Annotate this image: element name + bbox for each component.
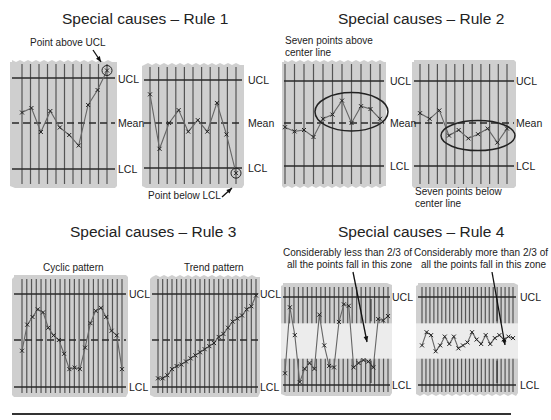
bottom-divider: [12, 413, 511, 415]
note-trend-pattern: Trend pattern: [184, 262, 244, 274]
note-more-than-two-thirds-2: all the points fall in this zone: [421, 259, 546, 271]
rule4b-lcl-label: LCL: [520, 379, 539, 391]
rule3b-ucl-label: UCL: [260, 288, 281, 300]
rule1b-ucl-label: UCL: [248, 74, 269, 86]
rule2-title: Special causes – Rule 2: [338, 10, 504, 28]
note-point-above-ucl: Point above UCL: [30, 37, 106, 49]
rule2b-ucl-label: UCL: [516, 75, 537, 87]
note-less-than-two-thirds-2: all the points fall in this zone: [287, 259, 412, 271]
rule3b-lcl-label: LCL: [260, 381, 279, 393]
rule2a-lcl-label: LCL: [390, 160, 409, 172]
rule1b-mean-label: Mean: [248, 117, 274, 129]
rule3a-lcl-label: LCL: [129, 381, 148, 393]
note-less-than-two-thirds-1: Considerably less than 2/3 of: [283, 247, 412, 259]
note-seven-below-1: Seven points below: [415, 186, 502, 198]
rule2b-mean-label: Mean: [516, 117, 542, 129]
rule2a-ucl-label: UCL: [390, 75, 411, 87]
rule2b-lcl-label: LCL: [516, 160, 535, 172]
note-seven-above-2: center line: [285, 47, 331, 59]
note-more-than-two-thirds-1: Considerably more than 2/3 of: [414, 247, 548, 259]
rule1b-lcl-label: LCL: [248, 162, 267, 174]
rule4b-ucl-label: UCL: [520, 291, 541, 303]
rule4a-lcl-label: LCL: [392, 379, 411, 391]
rule4-title: Special causes – Rule 4: [338, 223, 504, 241]
rule1a-lcl-label: LCL: [118, 163, 137, 175]
control-chart-rules-diagram: [0, 0, 551, 420]
rule1-title: Special causes – Rule 1: [62, 10, 228, 28]
rule1a-ucl-label: UCL: [118, 73, 139, 85]
note-seven-below-2: center line: [415, 198, 461, 210]
note-seven-above-1: Seven points above: [285, 35, 373, 47]
note-cyclic-pattern: Cyclic pattern: [43, 262, 104, 274]
rule2a-mean-label: Mean: [390, 117, 416, 129]
rule1a-mean-label: Mean: [118, 117, 144, 129]
rule4a-ucl-label: UCL: [392, 291, 413, 303]
note-point-below-lcl: Point below LCL: [148, 190, 221, 202]
rule3-title: Special causes – Rule 3: [70, 223, 236, 241]
rule3a-ucl-label: UCL: [129, 288, 150, 300]
